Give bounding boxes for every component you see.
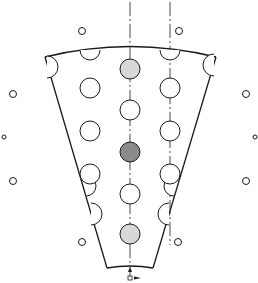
hole-light-10 (120, 224, 140, 244)
edge-half-hole-5 (158, 203, 169, 225)
outer-marker-9 (175, 239, 182, 246)
edge-half-hole-4 (91, 203, 102, 225)
outer-marker-4 (2, 135, 6, 139)
hole-empty-1 (80, 78, 100, 98)
hole-empty-3 (120, 100, 140, 120)
hole-dark-6 (120, 142, 140, 162)
arrow-up-icon (128, 267, 132, 272)
outer-marker-5 (253, 135, 257, 139)
indicator (128, 267, 141, 280)
hole-empty-2 (160, 78, 180, 98)
hole-empty-9 (120, 184, 140, 204)
sector-diagram (0, 0, 258, 283)
indicator-square-icon (128, 276, 132, 280)
outer-marker-7 (243, 178, 250, 185)
outer-marker-1 (176, 28, 183, 35)
edge-half-hole-1 (160, 50, 180, 60)
outer-marker-3 (243, 91, 250, 98)
edge-half-hole-2 (47, 56, 58, 78)
hole-empty-8 (160, 164, 180, 184)
outer-marker-0 (79, 28, 86, 35)
hole-empty-7 (80, 164, 100, 184)
outer-marker-6 (10, 178, 17, 185)
edge-half-hole-0 (80, 50, 100, 60)
outer-marker-2 (10, 91, 17, 98)
outer-marker-8 (79, 239, 86, 246)
hole-empty-5 (160, 121, 180, 141)
hole-empty-4 (80, 121, 100, 141)
edge-half-hole-3 (203, 54, 214, 76)
arrow-right-icon (134, 277, 141, 280)
hole-light-0 (120, 59, 140, 79)
